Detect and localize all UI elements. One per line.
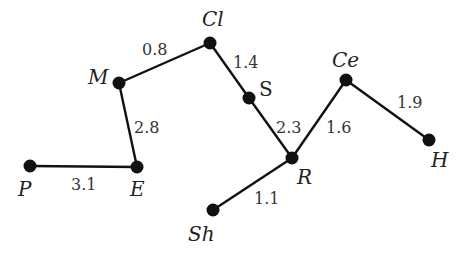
node-label-cl: Cl bbox=[202, 7, 224, 31]
edge-weight-label: 1.4 bbox=[233, 53, 258, 72]
edge-p-e bbox=[30, 166, 137, 167]
node-label-p: P bbox=[17, 177, 32, 201]
node-label-e: E bbox=[129, 177, 145, 201]
node-m bbox=[113, 77, 126, 90]
node-r bbox=[286, 152, 299, 165]
node-labels: PEMClSRCeHSh bbox=[17, 7, 449, 246]
edge-weight-label: 1.6 bbox=[326, 118, 351, 137]
node-e bbox=[131, 161, 144, 174]
node-sh bbox=[207, 204, 220, 217]
edge-weight-label: 2.3 bbox=[276, 118, 301, 137]
node-h bbox=[423, 134, 436, 147]
node-label-r: R bbox=[296, 165, 312, 189]
node-label-s: S bbox=[259, 77, 273, 101]
edge-weight-label: 3.1 bbox=[71, 175, 96, 194]
node-label-m: M bbox=[87, 65, 109, 89]
weighted-tree-diagram: 3.12.80.81.42.31.61.91.1 PEMClSRCeHSh bbox=[0, 0, 456, 253]
edge-weight-label: 1.1 bbox=[254, 189, 279, 208]
edge-weight-label: 2.8 bbox=[134, 118, 159, 137]
node-s bbox=[243, 92, 256, 105]
node-ce bbox=[340, 74, 353, 87]
node-label-h: H bbox=[430, 148, 449, 172]
node-label-sh: Sh bbox=[188, 222, 215, 246]
edge-weight-label: 1.9 bbox=[397, 93, 422, 112]
node-cl bbox=[204, 37, 217, 50]
edge-r-sh bbox=[213, 158, 292, 210]
edge-weights: 3.12.80.81.42.31.61.91.1 bbox=[71, 40, 422, 208]
edge-weight-label: 0.8 bbox=[142, 40, 167, 59]
node-p bbox=[24, 160, 37, 173]
node-label-ce: Ce bbox=[332, 48, 359, 72]
